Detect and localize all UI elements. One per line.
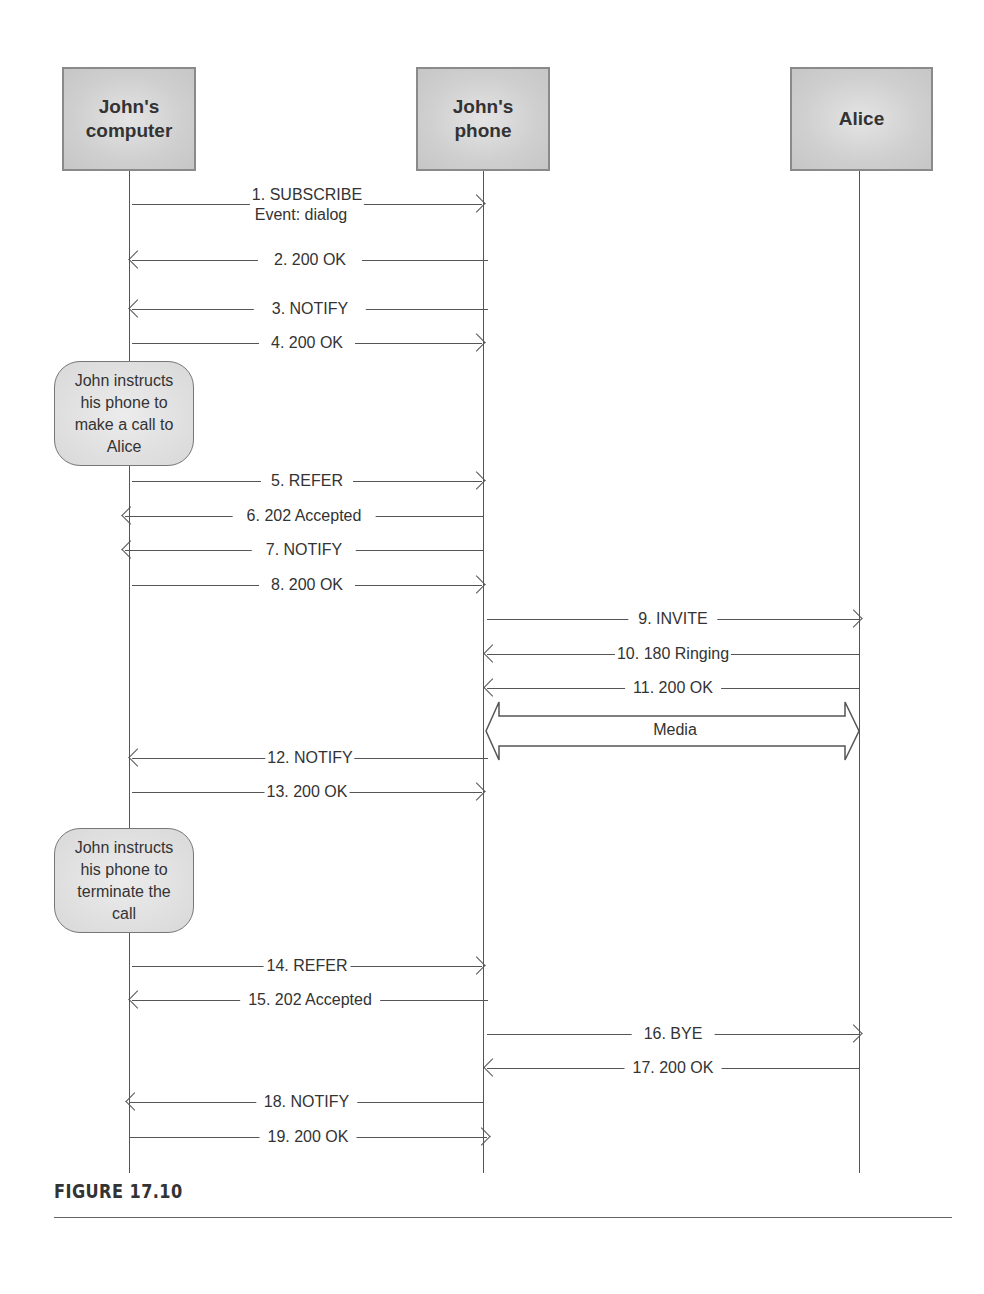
- actor-johns-phone: John'sphone: [416, 67, 550, 171]
- note-line: Alice: [107, 438, 142, 455]
- message-12-notify: 12. NOTIFY: [132, 748, 488, 768]
- actor-label: computer: [86, 120, 173, 141]
- message-5-refer: 5. REFER: [132, 471, 482, 491]
- message-label: 15. 202 Accepted: [240, 990, 380, 1010]
- actor-alice: Alice: [790, 67, 933, 171]
- message-7-notify: 7. NOTIFY: [125, 540, 483, 560]
- note-line: his phone to: [80, 861, 167, 878]
- actor-johns-computer: John'scomputer: [62, 67, 196, 171]
- arrowhead-left-icon: [121, 540, 139, 558]
- note-line: make a call to: [75, 416, 174, 433]
- lifeline-johns-phone: [483, 171, 484, 1173]
- message-11-200-ok: 11. 200 OK: [487, 678, 859, 698]
- message-label: 16. BYE: [632, 1024, 715, 1044]
- actor-label: Alice: [839, 108, 884, 129]
- note-make-call: John instructs his phone to make a call …: [54, 361, 194, 466]
- arrowhead-left-icon: [121, 506, 139, 524]
- message-label: 14. REFER: [264, 956, 351, 976]
- message-label: 17. 200 OK: [625, 1058, 722, 1078]
- message-label: 5. REFER: [261, 471, 353, 491]
- message-label: 10. 180 Ringing: [615, 644, 731, 664]
- message-label: 11. 200 OK: [625, 678, 721, 698]
- arrowhead-left-icon: [125, 1092, 143, 1110]
- message-label: 7. NOTIFY: [252, 540, 356, 560]
- arrowhead-left-icon: [483, 644, 501, 662]
- message-label: 4. 200 OK: [259, 333, 355, 353]
- message-label: 8. 200 OK: [259, 575, 355, 595]
- message-9-invite: 9. INVITE: [487, 609, 859, 629]
- message-label: 12. NOTIFY: [265, 748, 354, 768]
- message-18-notify: 18. NOTIFY: [129, 1092, 484, 1112]
- note-line: his phone to: [80, 394, 167, 411]
- note-line: terminate the: [77, 883, 170, 900]
- arrowhead-left-icon: [128, 990, 146, 1008]
- message-label: 2. 200 OK: [258, 250, 362, 270]
- actor-label: phone: [454, 120, 511, 141]
- message-label: 19. 200 OK: [260, 1127, 357, 1147]
- lifeline-alice: [859, 171, 860, 1173]
- message-label: 9. INVITE: [628, 609, 717, 629]
- message-label: 1. SUBSCRIBE: [250, 185, 364, 205]
- figure-caption: FIGURE 17.10: [54, 1180, 183, 1202]
- arrowhead-right-icon: [472, 1127, 490, 1145]
- message-label: 18. NOTIFY: [256, 1092, 357, 1112]
- message-16-bye: 16. BYE: [487, 1024, 859, 1044]
- message-3-notify: 3. NOTIFY: [132, 299, 488, 319]
- message-13-200-ok: 13. 200 OK: [132, 782, 482, 802]
- note-line: call: [112, 905, 136, 922]
- message-15-202-accepted: 15. 202 Accepted: [132, 990, 488, 1010]
- arrowhead-left-icon: [128, 748, 146, 766]
- message-label: 13. 200 OK: [265, 782, 350, 802]
- actor-label: John's: [99, 96, 159, 117]
- message-17-200-ok: 17. 200 OK: [487, 1058, 859, 1078]
- message-4-200-ok: 4. 200 OK: [132, 333, 482, 353]
- arrowhead-left-icon: [483, 1058, 501, 1076]
- media-label: Media: [620, 720, 730, 740]
- caption-divider: [54, 1217, 952, 1218]
- note-line: John instructs: [75, 839, 174, 856]
- arrowhead-left-icon: [483, 678, 501, 696]
- message-label: 6. 202 Accepted: [233, 506, 376, 526]
- message-1-sublabel: Event: dialog: [236, 205, 366, 225]
- message-2-200-ok: 2. 200 OK: [132, 250, 488, 270]
- actor-label: John's: [453, 96, 513, 117]
- note-terminate-call: John instructs his phone to terminate th…: [54, 828, 194, 933]
- message-10-180-ringing: 10. 180 Ringing: [487, 644, 859, 664]
- message-19-200-ok: 19. 200 OK: [129, 1127, 487, 1147]
- arrowhead-left-icon: [128, 299, 146, 317]
- message-label: 3. NOTIFY: [254, 299, 366, 319]
- message-8-200-ok: 8. 200 OK: [132, 575, 482, 595]
- message-14-refer: 14. REFER: [132, 956, 482, 976]
- note-line: John instructs: [75, 372, 174, 389]
- lifeline-johns-computer: [129, 171, 130, 1173]
- arrowhead-left-icon: [128, 250, 146, 268]
- message-6-202-accepted: 6. 202 Accepted: [125, 506, 483, 526]
